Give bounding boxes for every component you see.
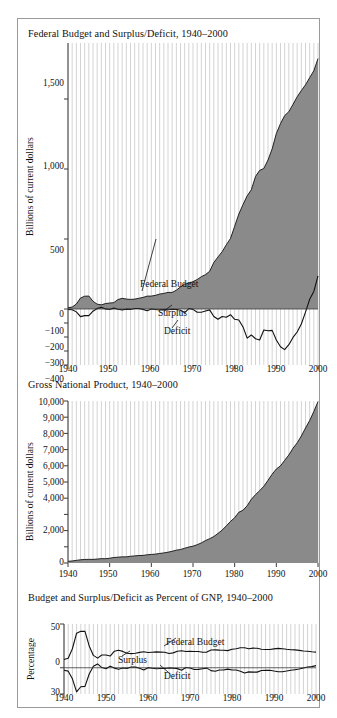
ytick-gnp-7000: 7,000 <box>20 445 64 455</box>
ytick-federal-budget-1500: 1,500 <box>26 78 64 88</box>
ytick-federal-budget-neg200: −200 <box>26 342 64 352</box>
ytick-federal-budget-500: 500 <box>26 245 64 255</box>
panel-gross-national-product: Gross National Product, 1940–2000 Billio… <box>18 377 321 587</box>
xtick-gnp-2000: 2000 <box>302 569 334 579</box>
plot-area-federal-budget <box>68 43 318 365</box>
ytick-percent-50: 50 <box>32 622 60 632</box>
ytick-gnp-5000: 5,000 <box>20 477 64 487</box>
ytick-gnp-4000: 4,000 <box>20 493 64 503</box>
panel-percent-of-gnp: Budget and Surplus/Deficit as Percent of… <box>18 589 321 709</box>
ytick-gnp-10000: 10,000 <box>20 397 64 407</box>
ytick-gnp-8000: 8,000 <box>20 429 64 439</box>
panel-title-gnp: Gross National Product, 1940–2000 <box>28 379 178 390</box>
figure-container: Federal Budget and Surplus/Deficit, 1940… <box>17 18 320 708</box>
annotation-percent-deficit-label: Deficit <box>164 671 190 681</box>
panel-federal-budget: Federal Budget and Surplus/Deficit, 1940… <box>18 19 321 369</box>
axis-label-y-federal-budget: Billions of current dollars <box>24 114 35 259</box>
ytick-federal-budget-0: 0 <box>26 309 64 319</box>
annotation-federal-budget-label: Federal Budget <box>140 279 198 289</box>
xtick-federal-budget-1980: 1980 <box>218 364 250 374</box>
xtick-gnp-1970: 1970 <box>176 569 208 579</box>
xtick-federal-budget-1960: 1960 <box>134 364 166 374</box>
xtick-gnp-1980: 1980 <box>218 569 250 579</box>
ytick-gnp-9000: 9,000 <box>20 413 64 423</box>
xtick-federal-budget-1950: 1950 <box>92 364 124 374</box>
xtick-federal-budget-1970: 1970 <box>176 364 208 374</box>
xtick-gnp-1940: 1940 <box>52 569 84 579</box>
ytick-gnp-6000: 6,000 <box>20 461 64 471</box>
ytick-federal-budget-neg100: −100 <box>26 326 64 336</box>
annotation-deficit-label: Deficit <box>164 326 190 336</box>
panel-title-federal-budget: Federal Budget and Surplus/Deficit, 1940… <box>28 28 228 39</box>
annotation-surplus-label: Surplus <box>158 308 187 318</box>
annotation-percent-federal-budget-label: Federal Budget <box>166 637 224 647</box>
ytick-percent-0: 0 <box>32 657 60 667</box>
panel-title-percent-gnp: Budget and Surplus/Deficit as Percent of… <box>28 592 273 603</box>
ytick-gnp-2000: 2,000 <box>20 525 64 535</box>
xtick-gnp-1990: 1990 <box>260 569 292 579</box>
plot-area-gnp <box>68 401 318 563</box>
ytick-gnp-0: 0 <box>20 557 64 567</box>
plot-area-percent-gnp <box>64 624 316 694</box>
annotation-percent-surplus-label: Surplus <box>118 655 147 665</box>
xtick-gnp-1960: 1960 <box>134 569 166 579</box>
ytick-federal-budget-1000: 1,000 <box>26 161 64 171</box>
axis-label-y-gnp: Billions of current dollars <box>24 419 35 564</box>
xtick-gnp-1950: 1950 <box>92 569 124 579</box>
